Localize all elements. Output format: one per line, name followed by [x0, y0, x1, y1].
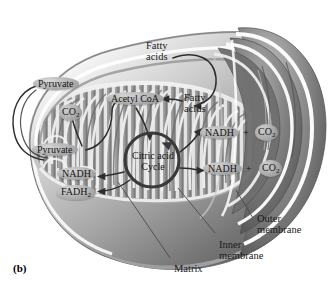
label-fatty-acids-inner: Fatty acids [184, 92, 206, 114]
outer-membrane-line2: membrane [257, 224, 301, 235]
molecule-nadh-right-bottom: NADH [203, 162, 242, 175]
fatty-acids-top-line2: acids [146, 51, 168, 62]
molecule-co2-right-bottom: CO2 [259, 160, 282, 177]
inner-membrane-line1: Inner [219, 239, 263, 250]
label-fatty-acids-top: Fatty acids [146, 40, 168, 62]
inner-membrane-line2: membrane [219, 250, 263, 261]
molecule-pyruvate-outer: Pyruvate [33, 77, 79, 90]
outer-membrane-line1: Outer [257, 213, 301, 224]
molecule-acetyl-coa: Acetyl CoA [106, 92, 164, 105]
plus-sign-bottom: + [246, 163, 252, 174]
plus-sign-top: + [243, 127, 249, 138]
molecule-co2-right-top: CO2 [255, 124, 278, 141]
co2-right-bottom-subscript: 2 [276, 167, 280, 175]
fadh2-text: FADH [61, 186, 87, 197]
fadh2-subscript: 2 [87, 191, 91, 199]
figure-canvas: Pyruvate CO2 Pyruvate Acetyl CoA Fatty a… [0, 0, 336, 298]
label-citric-acid-cycle: Citric acid Cycle [124, 150, 182, 172]
molecule-fadh2: FADH2 [56, 185, 96, 200]
label-inner-membrane: Inner membrane [219, 239, 263, 261]
co2-left-text: CO [62, 106, 76, 117]
molecule-nadh-right-top: NADH [200, 126, 239, 139]
molecule-pyruvate-inner: Pyruvate [32, 143, 78, 156]
fatty-acids-top-line1: Fatty [146, 40, 168, 51]
molecule-co2-left: CO2 [59, 104, 82, 121]
cycle-line1: Citric acid [124, 150, 182, 161]
co2-right-top-text: CO [258, 126, 272, 137]
fatty-acids-inner-line1: Fatty [184, 92, 206, 103]
molecule-nadh-left: NADH [57, 167, 96, 180]
label-outer-membrane: Outer membrane [257, 213, 301, 235]
co2-right-top-subscript: 2 [272, 131, 276, 139]
panel-label: (b) [13, 262, 26, 274]
cycle-line2: Cycle [124, 161, 182, 172]
label-matrix: Matrix [174, 263, 203, 274]
co2-left-subscript: 2 [76, 111, 80, 119]
fatty-acids-inner-line2: acids [184, 103, 206, 114]
co2-right-bottom-text: CO [262, 162, 276, 173]
